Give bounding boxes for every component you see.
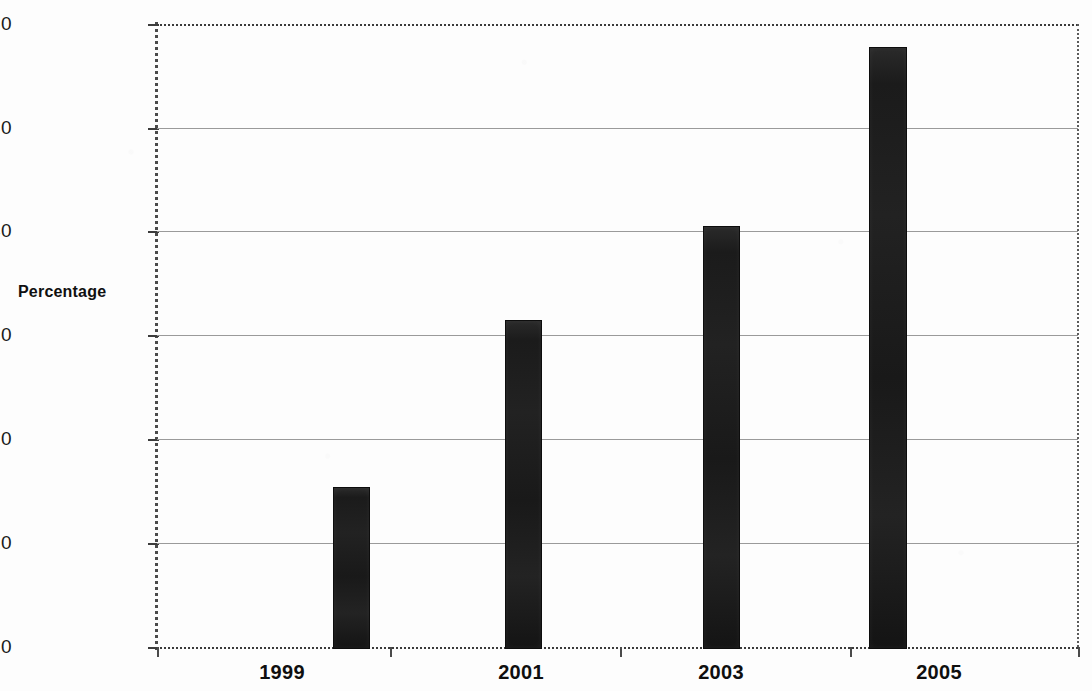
gridline-40 — [157, 231, 1078, 232]
bar-chart: Percentage 60 50 40 30 20 10 0 1999 2 — [0, 0, 1092, 691]
y-axis-title: Percentage — [18, 283, 106, 301]
y-tick-label-0: 0 — [0, 636, 12, 658]
y-tick-label-20: 20 — [0, 428, 12, 450]
y-tick-label-30: 30 — [0, 324, 12, 346]
x-tick-mark-0 — [157, 647, 159, 657]
x-label-2005: 2005 — [879, 661, 999, 684]
plot-frame-bottom — [157, 647, 1078, 649]
x-tick-mark-3 — [850, 647, 852, 657]
bar-1999 — [333, 487, 370, 649]
x-label-2001: 2001 — [461, 661, 581, 684]
bar-2001 — [505, 320, 542, 649]
y-tick-label-10: 10 — [0, 532, 12, 554]
plot-area — [157, 24, 1078, 647]
x-tick-mark-2 — [620, 647, 622, 657]
gridline-50 — [157, 128, 1078, 129]
x-tick-mark-1 — [390, 647, 392, 657]
gridline-20 — [157, 439, 1078, 440]
plot-frame-top — [157, 24, 1078, 26]
bar-2005 — [869, 47, 907, 649]
x-tick-mark-4 — [1078, 647, 1080, 657]
x-label-2003: 2003 — [661, 661, 781, 684]
y-tick-label-40: 40 — [0, 220, 12, 242]
y-tick-label-50: 50 — [0, 117, 12, 139]
x-label-1999: 1999 — [222, 661, 342, 684]
bar-2003 — [703, 226, 740, 649]
gridline-10 — [157, 543, 1078, 544]
y-tick-label-60: 60 — [0, 13, 12, 35]
gridline-30 — [157, 335, 1078, 336]
